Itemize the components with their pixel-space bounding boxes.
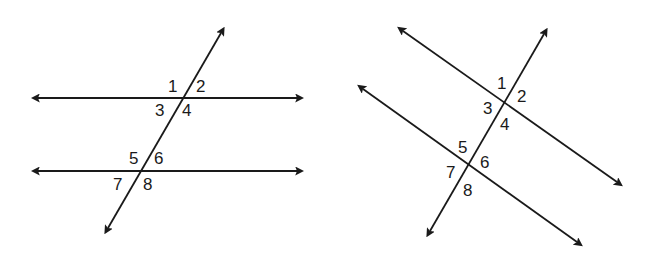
figure-horizontal-parallel-lines: 1 2 3 4 5 6 7 8 bbox=[38, 33, 297, 228]
diagram-canvas: 1 2 3 4 5 6 7 8 1 2 3 4 5 6 7 8 bbox=[0, 0, 651, 258]
angle-label-4: 4 bbox=[182, 101, 191, 120]
angle-label-8: 8 bbox=[143, 175, 152, 194]
parallel-line-2 bbox=[363, 89, 577, 242]
angle-label-6: 6 bbox=[154, 149, 163, 168]
angle-label-2: 2 bbox=[517, 87, 526, 106]
angle-label-7: 7 bbox=[446, 163, 455, 182]
angle-label-2: 2 bbox=[196, 77, 205, 96]
transversal-line bbox=[108, 33, 221, 228]
angle-label-6: 6 bbox=[480, 153, 489, 172]
angle-label-1: 1 bbox=[497, 74, 506, 93]
angle-label-1: 1 bbox=[168, 77, 177, 96]
transversal-line bbox=[430, 34, 544, 231]
angle-label-5: 5 bbox=[129, 149, 138, 168]
angle-label-4: 4 bbox=[500, 115, 509, 134]
angle-label-5: 5 bbox=[458, 138, 467, 157]
angle-label-8: 8 bbox=[463, 181, 472, 200]
parallel-line-1 bbox=[403, 31, 617, 182]
angle-label-3: 3 bbox=[483, 99, 492, 118]
figure-slanted-parallel-lines: 1 2 3 4 5 6 7 8 bbox=[363, 31, 617, 242]
angle-label-3: 3 bbox=[155, 101, 164, 120]
angle-label-7: 7 bbox=[113, 175, 122, 194]
